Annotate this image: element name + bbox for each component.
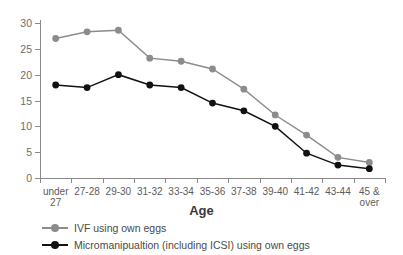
data-point-marker xyxy=(303,132,310,139)
data-point-marker xyxy=(209,100,216,107)
legend-swatch-icsi xyxy=(42,240,68,250)
data-point-marker xyxy=(335,154,342,161)
data-point-marker xyxy=(115,71,122,78)
legend-label-icsi: Micromanipualtion (including ICSI) using… xyxy=(74,239,310,251)
data-point-marker xyxy=(84,28,91,35)
data-point-marker xyxy=(240,86,247,93)
data-point-marker xyxy=(178,84,185,91)
data-point-marker xyxy=(52,82,59,89)
data-point-marker xyxy=(240,107,247,114)
data-point-marker xyxy=(209,66,216,73)
data-point-marker xyxy=(272,112,279,119)
data-point-marker xyxy=(366,165,373,172)
data-point-marker xyxy=(335,162,342,169)
series-line xyxy=(56,75,370,169)
legend-label-ivf: IVF using own eggs xyxy=(74,222,166,234)
data-point-marker xyxy=(272,123,279,130)
chart-container: 051015202530 under 2727-2829-3031-3233-3… xyxy=(0,0,403,255)
chart-legend: IVF using own eggs Micromanipualtion (in… xyxy=(42,219,310,253)
legend-swatch-ivf xyxy=(42,223,68,233)
data-point-marker xyxy=(146,55,153,62)
data-point-marker xyxy=(52,35,59,42)
data-point-marker xyxy=(178,58,185,65)
series-line xyxy=(56,30,370,162)
x-axis-title: Age xyxy=(0,203,403,218)
data-point-marker xyxy=(303,150,310,157)
data-point-marker xyxy=(115,27,122,34)
legend-item-ivf: IVF using own eggs xyxy=(42,219,310,236)
legend-item-icsi: Micromanipualtion (including ICSI) using… xyxy=(42,236,310,253)
data-point-marker xyxy=(366,159,373,166)
data-point-marker xyxy=(84,84,91,91)
data-point-marker xyxy=(146,82,153,89)
